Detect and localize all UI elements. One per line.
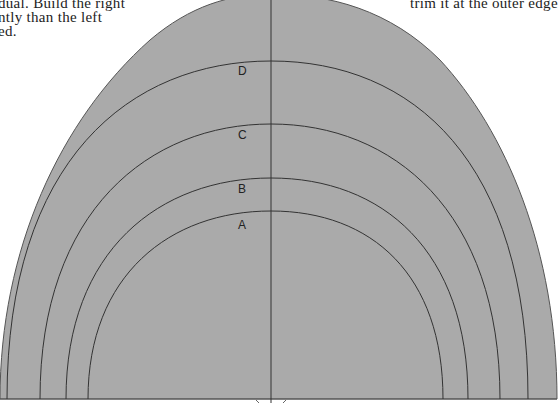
dome-shape [0, 0, 557, 399]
arc-label-c: C [238, 128, 247, 142]
arch-template-diagram: D C B A [0, 0, 559, 403]
arc-label-b: B [238, 182, 246, 196]
arc-label-d: D [238, 64, 247, 78]
arc-label-a: A [238, 218, 246, 232]
